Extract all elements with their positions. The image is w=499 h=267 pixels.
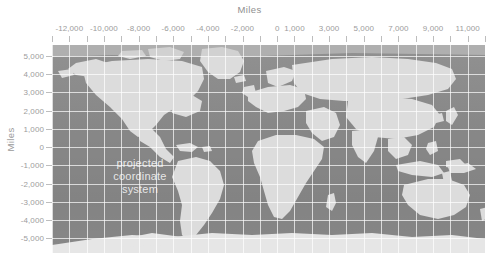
y-tick-label: -3,000 (21, 197, 44, 206)
x-tick-mark (398, 36, 399, 42)
x-axis-title: Miles (0, 4, 499, 15)
x-tick-mark (121, 36, 122, 42)
y-tick-label: -5,000 (21, 234, 44, 243)
x-tick-mark (277, 36, 278, 42)
x-tick-mark (433, 36, 434, 42)
x-tick-label: 9,000 (423, 24, 444, 33)
y-tick-label: -1,000 (21, 161, 44, 170)
x-tick-mark (173, 36, 174, 42)
x-tick-mark (260, 36, 261, 42)
x-tick-mark (69, 36, 70, 42)
x-tick-label: 11,000 (455, 24, 479, 33)
x-tick-label: -6,000 (162, 24, 185, 33)
x-tick-mark (329, 36, 330, 42)
x-tick-label: -12,000 (55, 24, 83, 33)
x-tick-mark (381, 36, 382, 42)
x-tick-mark (104, 36, 105, 42)
y-tick-label: 4,000 (23, 70, 44, 79)
y-tick-label: 5,000 (23, 51, 44, 60)
y-tick-label: 3,000 (23, 88, 44, 97)
x-tick-label: 3,000 (319, 24, 340, 33)
map-plot-area[interactable]: projected coordinate system (52, 45, 485, 253)
x-tick-label: -8,000 (127, 24, 150, 33)
x-tick-mark (450, 36, 451, 42)
y-tick-label: 0 (39, 143, 44, 152)
y-tick-label: -4,000 (21, 216, 44, 225)
x-tick-label: 0 (275, 24, 280, 33)
y-tick-label: -2,000 (21, 179, 44, 188)
x-tick-mark (139, 36, 140, 42)
y-axis-title: Miles (5, 117, 16, 163)
x-tick-mark (87, 36, 88, 42)
x-tick-mark (243, 36, 244, 42)
x-tick-mark (468, 36, 469, 42)
x-tick-label: -10,000 (90, 24, 118, 33)
x-tick-mark (156, 36, 157, 42)
x-tick-mark (225, 36, 226, 42)
world-map-figure: Miles Miles -12,000-10,000-8,000-6,000-4… (0, 0, 499, 267)
x-tick-label: 1,000 (284, 24, 305, 33)
x-tick-mark (294, 36, 295, 42)
x-tick-label: -2,000 (231, 24, 254, 33)
x-tick-mark (346, 36, 347, 42)
x-tick-mark (416, 36, 417, 42)
x-tick-label: 7,000 (388, 24, 409, 33)
x-tick-mark (312, 36, 313, 42)
x-tick-mark (191, 36, 192, 42)
landmass-layer (52, 45, 485, 253)
x-tick-mark (52, 36, 53, 42)
y-tick-label: 1,000 (23, 124, 44, 133)
x-tick-label: -4,000 (196, 24, 219, 33)
x-tick-mark (208, 36, 209, 42)
y-tick-label: 2,000 (23, 106, 44, 115)
x-tick-mark (364, 36, 365, 42)
x-tick-label: 5,000 (353, 24, 374, 33)
x-tick-mark (485, 36, 486, 42)
